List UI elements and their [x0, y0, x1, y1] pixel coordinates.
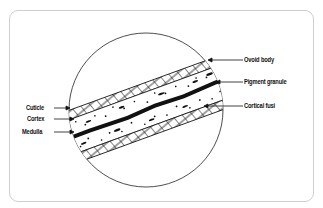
label-ovoid-body: Ovoid body — [244, 56, 274, 64]
label-cortex: Cortex — [27, 115, 44, 123]
label-pigment-granule: Pigment granule — [244, 78, 287, 86]
label-cuticle: Cuticle — [26, 104, 44, 112]
label-medulla: Medulla — [22, 128, 42, 136]
label-cortical-fusi: Cortical fusi — [244, 102, 275, 110]
